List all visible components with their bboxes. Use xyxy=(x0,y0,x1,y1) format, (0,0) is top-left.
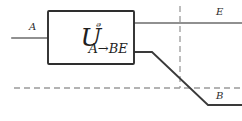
wire-label-a: A xyxy=(29,22,36,32)
output-wire-b xyxy=(134,52,242,105)
unitary-operator-box xyxy=(48,11,134,64)
diagram-canvas xyxy=(0,0,242,121)
wire-label-b: B xyxy=(216,91,223,101)
wire-label-e: E xyxy=(216,7,223,17)
quantum-circuit-diagram: U ᵊ A→BE A E B xyxy=(0,0,242,121)
